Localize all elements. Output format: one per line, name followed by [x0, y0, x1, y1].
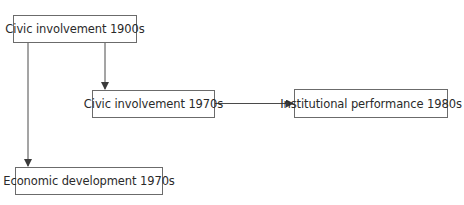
node-civic-involvement-1900s: Civic involvement 1900s	[13, 15, 137, 43]
diagram-canvas: Civic involvement 1900s Civic involvemen…	[0, 0, 464, 205]
node-label: Civic involvement 1970s	[84, 97, 223, 111]
node-economic-development-1970s: Economic development 1970s	[15, 167, 163, 195]
node-institutional-performance-1980s: Institutional performance 1980s	[294, 89, 448, 118]
node-label: Civic involvement 1900s	[5, 22, 144, 36]
node-civic-involvement-1970s: Civic involvement 1970s	[92, 90, 215, 118]
node-label: Institutional performance 1980s	[280, 97, 462, 111]
node-label: Economic development 1970s	[3, 174, 175, 188]
